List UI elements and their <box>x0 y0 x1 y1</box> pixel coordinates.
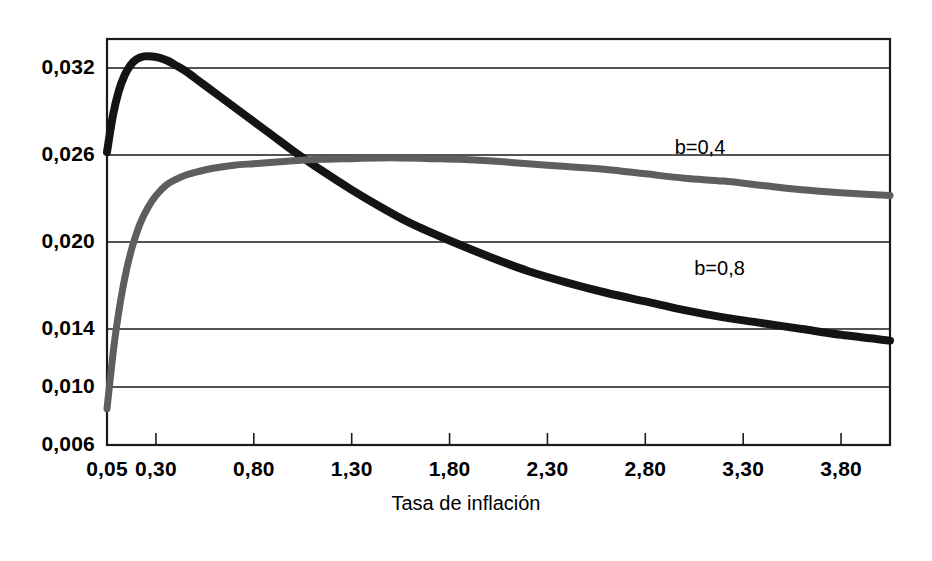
chart-figure: 0,0320,0260,0200,0140,0100,006 0,050,300… <box>0 0 932 561</box>
series-curves <box>107 56 890 409</box>
y-tick-label-2: 0,020 <box>41 229 95 253</box>
gridlines-group <box>107 68 890 387</box>
y-tick-label-1: 0,026 <box>41 142 95 166</box>
y-tick-label-3: 0,014 <box>41 316 95 340</box>
y-tick-label-4: 0,010 <box>41 374 95 398</box>
series-line-b08 <box>107 56 890 340</box>
series-label-b08: b=0,8 <box>694 257 745 280</box>
x-tick-label-5: 2,30 <box>512 457 582 481</box>
x-axis-ticks <box>107 433 841 445</box>
x-tick-label-2: 0,80 <box>219 457 289 481</box>
y-tick-label-0: 0,032 <box>41 55 95 79</box>
x-tick-label-1: 0,30 <box>121 457 191 481</box>
x-tick-label-6: 2,80 <box>610 457 680 481</box>
x-tick-label-7: 3,30 <box>708 457 778 481</box>
series-line-b04 <box>107 158 890 409</box>
series-label-b04: b=0,4 <box>675 136 726 159</box>
x-tick-label-3: 1,30 <box>317 457 387 481</box>
x-tick-label-4: 1,80 <box>415 457 485 481</box>
y-tick-label-5: 0,006 <box>41 432 95 456</box>
x-axis-title: Tasa de inflación <box>0 492 932 515</box>
x-tick-label-8: 3,80 <box>806 457 876 481</box>
